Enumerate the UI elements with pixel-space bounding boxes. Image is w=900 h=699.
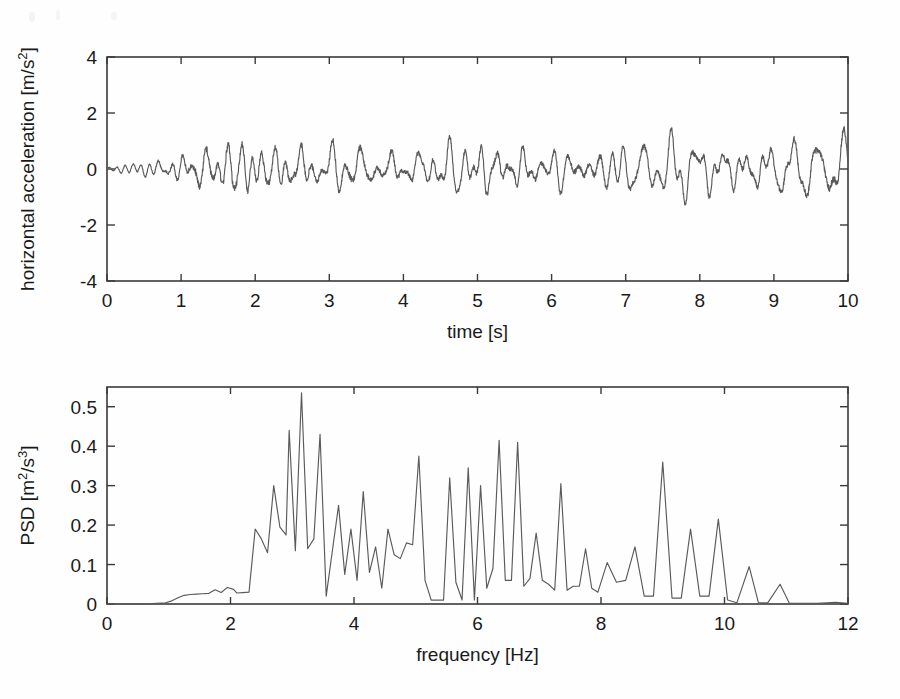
y-tick-label: 0.4 [71,436,98,457]
psd-plot: 02468101200.10.20.30.40.5frequency [Hz]P… [0,345,900,699]
time-history-data-line [107,127,848,205]
x-tick-label: 2 [250,290,261,311]
y-axis-label: horizontal acceleration [m/s2] [15,47,38,291]
y-tick-label: 0 [86,594,97,615]
y-axis-label-tail: ] [17,446,38,451]
y-axis-label-base: horizontal acceleration [m/s [17,60,38,291]
time-history-panel: 012345678910-4-2024time [s]horizontal ac… [0,0,900,360]
y-axis-label-tail: ] [17,47,38,52]
y-axis-label-exponent: 2 [15,52,30,59]
y-tick-label: 0.5 [71,397,97,418]
y-tick-label: 0 [86,159,97,180]
x-tick-label: 3 [324,290,335,311]
y-tick-label: 4 [86,47,97,68]
y-axis-label-text: horizontal acceleration [m/s2] [15,47,38,291]
x-tick-label: 12 [837,613,858,634]
y-tick-label: -2 [80,215,97,236]
y-axis-label-exponent-2: 3 [15,451,30,458]
y-axis-label-exponent-1: 2 [15,473,30,480]
x-tick-label: 8 [596,613,607,634]
plot-frame [107,387,848,604]
y-tick-label: 0.1 [71,555,97,576]
x-tick-label: 10 [714,613,735,634]
psd-panel: 02468101200.10.20.30.40.5frequency [Hz]P… [0,345,900,699]
y-axis-label: PSD [m2/s3] [15,446,38,546]
x-axis-label: time [s] [447,321,508,342]
x-tick-label: 4 [349,613,360,634]
x-tick-label: 7 [620,290,631,311]
y-tick-label: -4 [80,271,97,292]
psd-data-line [107,393,848,604]
x-axis-label: frequency [Hz] [416,644,539,665]
x-tick-label: 0 [102,290,113,311]
x-tick-label: 2 [225,613,236,634]
y-axis-label-text: PSD [m2/s3] [15,446,38,546]
y-axis-label-base: PSD [m [17,480,38,545]
x-tick-label: 10 [837,290,858,311]
x-tick-label: 9 [769,290,780,311]
time-history-plot: 012345678910-4-2024time [s]horizontal ac… [0,0,900,360]
x-tick-label: 1 [176,290,187,311]
y-axis-label-mid: /s [17,458,38,473]
x-tick-label: 6 [472,613,483,634]
y-tick-label: 0.3 [71,476,97,497]
x-tick-label: 4 [398,290,409,311]
x-tick-label: 0 [102,613,113,634]
y-tick-label: 2 [86,103,97,124]
figure-container: 012345678910-4-2024time [s]horizontal ac… [0,0,900,699]
y-tick-label: 0.2 [71,515,97,536]
x-tick-label: 6 [546,290,557,311]
x-tick-label: 8 [695,290,706,311]
x-tick-label: 5 [472,290,483,311]
